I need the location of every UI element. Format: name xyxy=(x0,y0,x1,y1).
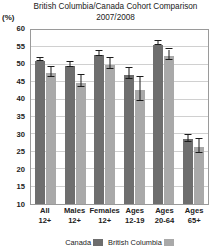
bar-british-columbia[interactable] xyxy=(46,73,56,204)
y-axis-unit-label: (%) xyxy=(2,13,14,22)
error-bar-cap-top xyxy=(155,40,162,41)
bar-slot xyxy=(164,30,174,204)
bar-slot xyxy=(124,30,134,204)
error-bar-cap-top xyxy=(107,57,114,58)
chart-title-line-1: British Columbia/Canada Cohort Compariso… xyxy=(18,1,213,12)
x-axis-tick-label-line: Females xyxy=(89,206,119,216)
error-bar-cap-bottom xyxy=(136,100,143,101)
bar-british-columbia[interactable] xyxy=(76,83,86,204)
y-axis-tick-label: 45 xyxy=(0,77,25,86)
x-axis-tick-label-line: 20-64 xyxy=(150,216,180,226)
error-bar-cap-top xyxy=(48,66,55,67)
error-bar-cap-bottom xyxy=(166,59,173,60)
x-axis-tick-label: Females12+ xyxy=(89,206,119,226)
x-axis-tick-label-line: All xyxy=(30,206,60,216)
error-bar-cap-bottom xyxy=(184,141,191,142)
bar-slot xyxy=(194,30,204,204)
bar-slot xyxy=(105,30,115,204)
bar-group xyxy=(149,30,179,204)
x-axis-tick-label-line: Ages xyxy=(179,206,209,216)
x-axis-tick-label: All12+ xyxy=(30,206,60,226)
error-bar-cap-top xyxy=(66,61,73,62)
error-bar-cap-bottom xyxy=(195,152,202,153)
error-bar-cap-bottom xyxy=(125,78,132,79)
bar-canada[interactable] xyxy=(124,75,134,204)
error-bar-cap-top xyxy=(125,67,132,68)
error-bar xyxy=(139,77,140,100)
y-axis-tick-label: 25 xyxy=(0,147,25,156)
y-axis-tick-label: 30 xyxy=(0,130,25,139)
x-axis-tick-label-line: 12+ xyxy=(89,216,119,226)
bar-british-columbia[interactable] xyxy=(135,90,145,204)
bar-group xyxy=(90,30,120,204)
error-bar-cap-bottom xyxy=(48,76,55,77)
error-bar-cap-top xyxy=(136,76,143,77)
chart-container: British Columbia/Canada Cohort Compariso… xyxy=(0,0,213,247)
bar-british-columbia[interactable] xyxy=(105,65,115,204)
x-axis-tick-label: Males12+ xyxy=(60,206,90,226)
error-bar-cap-top xyxy=(37,57,44,58)
chart-title: British Columbia/Canada Cohort Compariso… xyxy=(18,1,213,23)
bar-group xyxy=(120,30,150,204)
error-bar-cap-top xyxy=(166,48,173,49)
bar-group xyxy=(179,30,209,204)
legend-swatch xyxy=(164,239,174,246)
x-axis-tick-label-line: Ages xyxy=(120,206,150,216)
x-axis-tick-label-line: Ages xyxy=(150,206,180,216)
error-bar-cap-bottom xyxy=(155,44,162,45)
x-axis-tick-label-line: 12-19 xyxy=(120,216,150,226)
error-bar-cap-bottom xyxy=(66,66,73,67)
x-axis-tick-label: Ages65+ xyxy=(179,206,209,226)
plot-area xyxy=(30,29,209,205)
bar-slot xyxy=(35,30,45,204)
bar-canada[interactable] xyxy=(65,66,75,204)
bar-slot xyxy=(183,30,193,204)
bar-slot xyxy=(153,30,163,204)
y-axis-tick-label: 20 xyxy=(0,165,25,174)
bar-slot xyxy=(76,30,86,204)
y-axis-tick-label: 50 xyxy=(0,59,25,68)
bar-canada[interactable] xyxy=(183,139,193,204)
x-axis-tick-label: Ages12-19 xyxy=(120,206,150,226)
x-axis-tick-label-line: Males xyxy=(60,206,90,216)
bar-canada[interactable] xyxy=(35,61,45,204)
x-axis-tick-label-line: 12+ xyxy=(60,216,90,226)
y-axis-tick-label: 15 xyxy=(0,182,25,191)
y-axis-tick-label: 60 xyxy=(0,24,25,33)
error-bar-cap-bottom xyxy=(107,68,114,69)
legend-item[interactable]: Canada xyxy=(65,238,103,247)
y-axis-tick-label: 40 xyxy=(0,94,25,103)
legend-swatch xyxy=(93,239,103,246)
y-axis-tick-label: 35 xyxy=(0,112,25,121)
bar-british-columbia[interactable] xyxy=(194,147,204,204)
legend-label: British Columbia xyxy=(108,238,162,247)
bar-group xyxy=(31,30,61,204)
chart-title-line-2: 2007/2008 xyxy=(18,12,213,23)
bar-group xyxy=(61,30,91,204)
bar-slot xyxy=(94,30,104,204)
x-axis-tick-label-line: 65+ xyxy=(179,216,209,226)
bar-slot xyxy=(46,30,56,204)
bar-british-columbia[interactable] xyxy=(164,56,174,204)
bar-canada[interactable] xyxy=(153,45,163,204)
bar-canada[interactable] xyxy=(94,55,104,204)
error-bar-cap-top xyxy=(184,134,191,135)
error-bar-cap-bottom xyxy=(77,86,84,87)
x-axis-tick-label-line: 12+ xyxy=(30,216,60,226)
error-bar-cap-top xyxy=(77,74,84,75)
error-bar-cap-bottom xyxy=(37,60,44,61)
x-axis-tick-labels: All12+Males12+Females12+Ages12-19Ages20-… xyxy=(30,206,209,226)
legend-item[interactable]: British Columbia xyxy=(108,238,174,247)
bar-slot xyxy=(135,30,145,204)
y-axis-tick-label: 10 xyxy=(0,200,25,209)
bar-groups xyxy=(31,30,208,204)
chart-legend: CanadaBritish Columbia xyxy=(30,238,209,247)
bar-slot xyxy=(65,30,75,204)
error-bar-cap-top xyxy=(96,50,103,51)
y-axis-tick-label: 55 xyxy=(0,42,25,51)
error-bar-cap-top xyxy=(195,138,202,139)
x-axis-tick-label: Ages20-64 xyxy=(150,206,180,226)
error-bar-cap-bottom xyxy=(96,55,103,56)
legend-label: Canada xyxy=(65,238,91,247)
error-bar xyxy=(198,139,199,153)
